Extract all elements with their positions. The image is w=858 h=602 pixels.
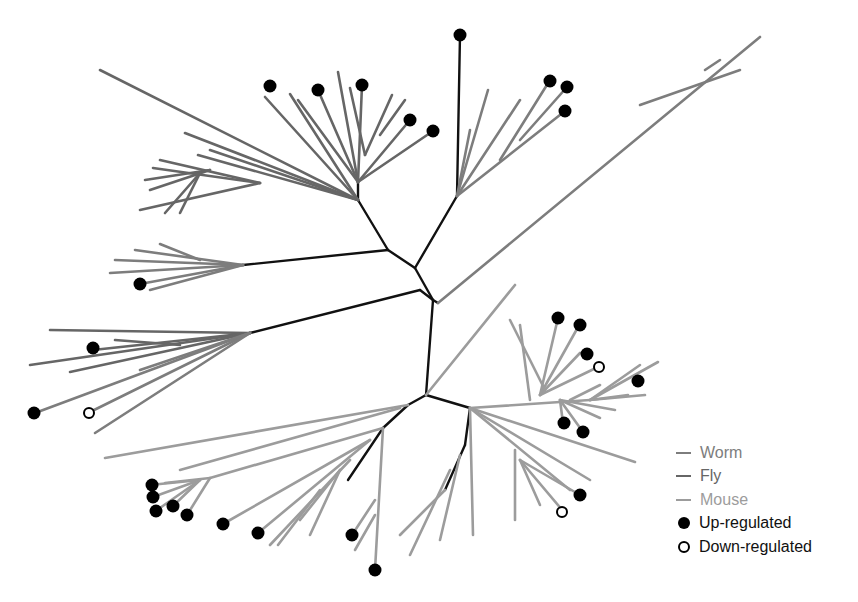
up-regulated-node-icon	[181, 509, 194, 522]
legend-label: Up-regulated	[699, 514, 792, 532]
branch	[408, 395, 426, 405]
up-regulated-node-icon	[427, 125, 440, 138]
up-regulated-node-icon	[264, 80, 277, 93]
legend-item-fly: Fly	[676, 465, 812, 489]
up-regulated-node-icon	[87, 342, 100, 355]
up-regulated-node-icon	[454, 29, 467, 42]
branch	[520, 325, 530, 400]
up-regulated-node-icon	[346, 529, 359, 542]
branch	[415, 196, 457, 268]
branch	[705, 60, 720, 70]
up-regulated-node-icon	[581, 348, 594, 361]
legend-item-mouse: Mouse	[676, 488, 812, 512]
branch	[457, 111, 565, 196]
up-regulated-nodes	[28, 29, 645, 577]
up-regulated-node-icon	[356, 79, 369, 92]
core-branches	[243, 35, 470, 490]
down-regulated-node-icon	[594, 362, 604, 372]
legend-item-worm: Worm	[676, 441, 812, 465]
up-regulated-node-icon	[632, 375, 645, 388]
branch	[375, 428, 383, 570]
mouse-line-swatch-icon	[676, 499, 691, 501]
fly-branches	[30, 70, 433, 372]
up-regulated-node-icon	[28, 407, 41, 420]
branch	[250, 290, 420, 333]
branch	[445, 445, 465, 490]
branch	[470, 408, 473, 535]
branch	[426, 395, 470, 408]
branch	[388, 250, 415, 268]
up-regulated-node-icon	[312, 84, 325, 97]
up-regulated-node-icon	[369, 564, 382, 577]
branch	[438, 37, 760, 303]
branch	[160, 244, 200, 260]
up-regulated-node-icon	[552, 312, 565, 325]
branch	[426, 300, 433, 395]
branch	[470, 408, 635, 462]
legend-label: Worm	[700, 444, 742, 462]
branch	[640, 70, 740, 105]
branch	[338, 72, 358, 182]
branch	[415, 268, 433, 300]
up-regulated-node-icon	[558, 417, 571, 430]
legend: Worm Fly Mouse Up-regulated Down-regulat…	[676, 441, 812, 559]
legend-label: Down-regulated	[699, 538, 812, 556]
up-regulated-node-icon	[252, 527, 265, 540]
branch	[457, 35, 460, 196]
filled-circle-icon	[678, 517, 690, 529]
branch	[105, 405, 408, 458]
phylogenetic-tree-figure: Worm Fly Mouse Up-regulated Down-regulat…	[0, 0, 858, 602]
branch	[258, 440, 370, 533]
legend-item-down-regulated: Down-regulated	[676, 535, 812, 559]
branch	[410, 470, 450, 555]
up-regulated-node-icon	[574, 489, 587, 502]
down-regulated-node-icon	[557, 507, 567, 517]
legend-item-up-regulated: Up-regulated	[676, 512, 812, 536]
up-regulated-node-icon	[544, 75, 557, 88]
up-regulated-node-icon	[561, 81, 574, 94]
legend-label: Fly	[700, 467, 721, 485]
up-regulated-node-icon	[134, 278, 147, 291]
up-regulated-node-icon	[150, 505, 163, 518]
up-regulated-node-icon	[574, 319, 587, 332]
open-circle-icon	[678, 541, 690, 553]
branch	[470, 408, 570, 490]
branch	[457, 90, 488, 196]
worm-line-swatch-icon	[676, 452, 691, 454]
branch	[358, 200, 388, 250]
up-regulated-node-icon	[217, 518, 230, 531]
legend-label: Mouse	[700, 491, 748, 509]
branch	[243, 250, 388, 265]
up-regulated-node-icon	[559, 105, 572, 118]
fly-line-swatch-icon	[676, 475, 691, 477]
up-regulated-node-icon	[577, 426, 590, 439]
branch	[440, 455, 460, 540]
up-regulated-node-icon	[146, 479, 159, 492]
branch	[50, 330, 250, 333]
down-regulated-node-icon	[84, 408, 94, 418]
up-regulated-node-icon	[167, 500, 180, 513]
worm-branches	[35, 37, 760, 433]
up-regulated-node-icon	[404, 114, 417, 127]
up-regulated-node-icon	[147, 491, 160, 504]
